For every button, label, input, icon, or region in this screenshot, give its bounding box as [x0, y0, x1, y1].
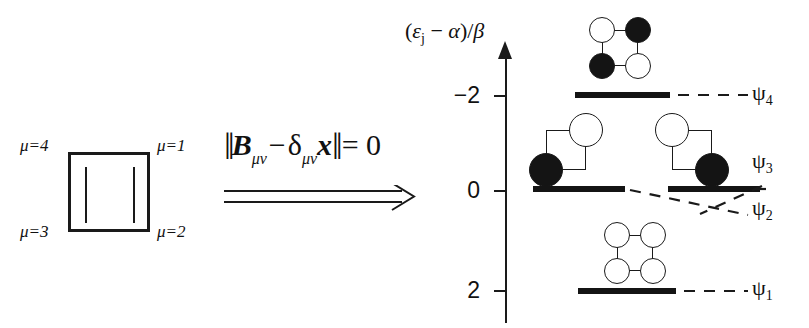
lobe-top-left — [604, 222, 630, 248]
axis-ticklabel-minus2: −2 — [438, 82, 480, 109]
equals-zero: = 0 — [340, 128, 383, 161]
psi-glyph: ψ — [752, 148, 766, 173]
lobe-top-right — [640, 222, 666, 248]
lobe-bottom-right — [695, 153, 729, 187]
level-bar-psi4 — [575, 92, 670, 98]
axis-ticklabel-zero: 0 — [438, 177, 480, 204]
lobe-bottom-right — [625, 53, 651, 79]
psi-subscript: 4 — [766, 93, 773, 108]
vertex-label-mu1: μ=1 — [157, 136, 186, 156]
leader-line-psi2 — [630, 190, 748, 215]
level-bar-psi3 — [668, 186, 760, 192]
double-bond-line-right — [133, 167, 135, 223]
level-bar-psi2 — [533, 186, 625, 192]
axis-tick-zero — [494, 190, 507, 192]
psi-subscript: 1 — [766, 288, 773, 303]
level-label-psi2: ψ2 — [752, 195, 773, 224]
vertex-label-mu4: μ=4 — [20, 136, 49, 156]
orbital-diagram-psi2 — [529, 113, 603, 187]
axis-ticklabel-plus2: 2 — [438, 277, 480, 304]
axis-label-beta: β — [473, 18, 484, 43]
lobe-bottom-left — [604, 258, 630, 284]
variable-x: x — [317, 128, 332, 161]
lobe-bottom-right — [640, 258, 666, 284]
matrix-symbol-B: B — [232, 128, 252, 161]
orbital-diagram-psi4 — [589, 17, 651, 79]
lobe-top-left — [655, 113, 689, 147]
level-label-psi3: ψ3 — [752, 148, 773, 177]
energy-axis-label: (εj − α)/β — [405, 18, 484, 47]
level-bar-psi1 — [578, 288, 676, 294]
psi-subscript: 2 — [766, 208, 773, 223]
huckel-cyclobutadiene-figure: μ=4 μ=1 μ=3 μ=2 ‖Bμν−δμνx‖= 0 (εj − α)/β… — [0, 0, 809, 328]
psi-glyph: ψ — [752, 275, 766, 300]
axis-label-alpha: α — [448, 18, 460, 43]
lobe-top-right — [625, 17, 651, 43]
axis-label-minus: − — [425, 18, 448, 43]
orbital-diagram-psi1 — [604, 222, 666, 284]
lobe-top-right — [569, 113, 603, 147]
lobe-bottom-left — [529, 153, 563, 187]
level-label-psi1: ψ1 — [752, 275, 773, 304]
double-bond-line-left — [85, 167, 87, 223]
delta-subscript: μν — [302, 150, 317, 167]
norm-bar-open: ‖ — [224, 127, 232, 165]
vertex-label-mu3: μ=3 — [20, 222, 49, 242]
vertex-label-mu2: μ=2 — [157, 222, 186, 242]
axis-label-epsilon: ε — [412, 18, 421, 43]
norm-bar-close: ‖ — [332, 127, 340, 165]
lobe-bottom-left — [589, 53, 615, 79]
lobe-top-left — [589, 17, 615, 43]
psi-glyph: ψ — [752, 80, 766, 105]
axis-tick-minus2 — [494, 95, 507, 97]
delta-symbol: δ — [288, 128, 302, 161]
psi-glyph: ψ — [752, 195, 766, 220]
level-label-psi4: ψ4 — [752, 80, 773, 109]
secular-determinant-equation: ‖Bμν−δμνx‖= 0 — [224, 127, 383, 167]
cyclobutadiene-structure — [68, 152, 150, 232]
axis-label-paren-close: )/ — [460, 18, 473, 43]
matrix-subscript: μν — [252, 150, 267, 167]
orbital-diagram-psi3 — [655, 113, 729, 187]
minus-operator: − — [267, 128, 288, 161]
implies-double-arrow-icon — [224, 185, 416, 211]
psi-subscript: 3 — [766, 161, 773, 176]
axis-tick-plus2 — [494, 290, 507, 292]
